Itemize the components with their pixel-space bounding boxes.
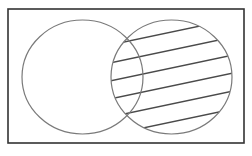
universal-set-rectangle <box>8 9 244 143</box>
venn-diagram <box>0 0 252 156</box>
